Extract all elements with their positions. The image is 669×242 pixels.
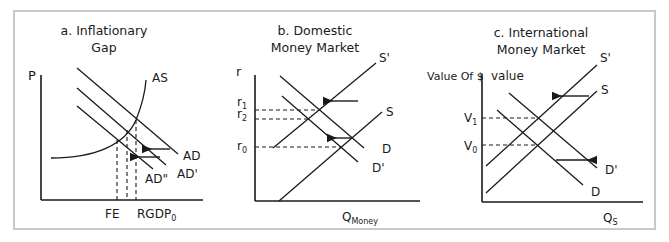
y-axis-label: P: [28, 68, 36, 83]
curve-d: [280, 76, 364, 148]
curve-d-label: D: [382, 142, 391, 156]
curve-s-prime: [273, 63, 376, 148]
panel-title-line: a. Inflationary: [61, 23, 148, 38]
curve-as: [51, 80, 146, 158]
y-tick-label: V1: [464, 111, 477, 127]
curve-ad-label: AD: [183, 149, 200, 163]
curve-s-label: S: [386, 105, 394, 119]
diagram-stage: a. InflationaryGapPASADAD'AD"FERGDP0 b. …: [0, 0, 669, 242]
panel-title-line: b. Domestic: [278, 23, 353, 38]
curve-ad-double-prime-label: AD": [145, 172, 168, 186]
curve-as-label: AS: [152, 71, 168, 85]
panel-title-line: Money Market: [271, 40, 359, 55]
curve-d: [497, 110, 583, 185]
curve-s-prime-label: S': [379, 51, 390, 65]
x-tick-label: FE: [105, 207, 119, 221]
panel-domestic-money-market: b. DomesticMoney MarketrS'SDD'r1r2r0QMon…: [236, 23, 420, 226]
x-tick-label: QS: [603, 211, 618, 227]
panel-inflationary-gap: a. InflationaryGapPASADAD'AD"FERGDP0: [28, 23, 203, 223]
curve-d-prime-label: D': [605, 163, 618, 177]
curve-ad-double-prime: [77, 106, 153, 169]
y-axis-label: r: [236, 64, 242, 79]
curve-s: [486, 91, 597, 193]
curve-s: [279, 112, 382, 201]
economics-diagram: a. InflationaryGapPASADAD'AD"FERGDP0 b. …: [0, 0, 669, 242]
curve-d-prime-label: D': [372, 161, 385, 175]
y-axis-label: Value Of $: [427, 70, 484, 83]
y-axis-label-secondary: value: [491, 69, 524, 83]
panel-title-line: Money Market: [497, 42, 585, 57]
panel-international-money-market: c. InternationalMoney MarketValue Of $va…: [427, 25, 643, 227]
x-tick-label: QMoney: [342, 210, 378, 226]
y-tick-label: r0: [237, 139, 247, 155]
curve-d-prime: [282, 96, 358, 162]
panel-title-line: Gap: [91, 40, 116, 55]
curve-s-label: S: [601, 83, 609, 97]
y-tick-label: V0: [464, 139, 477, 155]
curve-ad-prime-label: AD': [177, 167, 198, 181]
curve-s-prime-label: S': [600, 51, 611, 65]
curve-d-label: D: [591, 185, 600, 199]
panel-title-line: c. International: [494, 25, 589, 40]
x-tick-label: RGDP0: [137, 207, 176, 223]
